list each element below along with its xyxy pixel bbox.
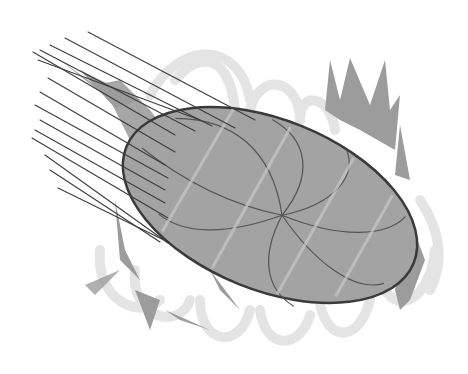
disc-illustration [0,0,468,374]
illustration-canvas: Grayscale sketch of a tilted oval disc w… [0,0,468,374]
